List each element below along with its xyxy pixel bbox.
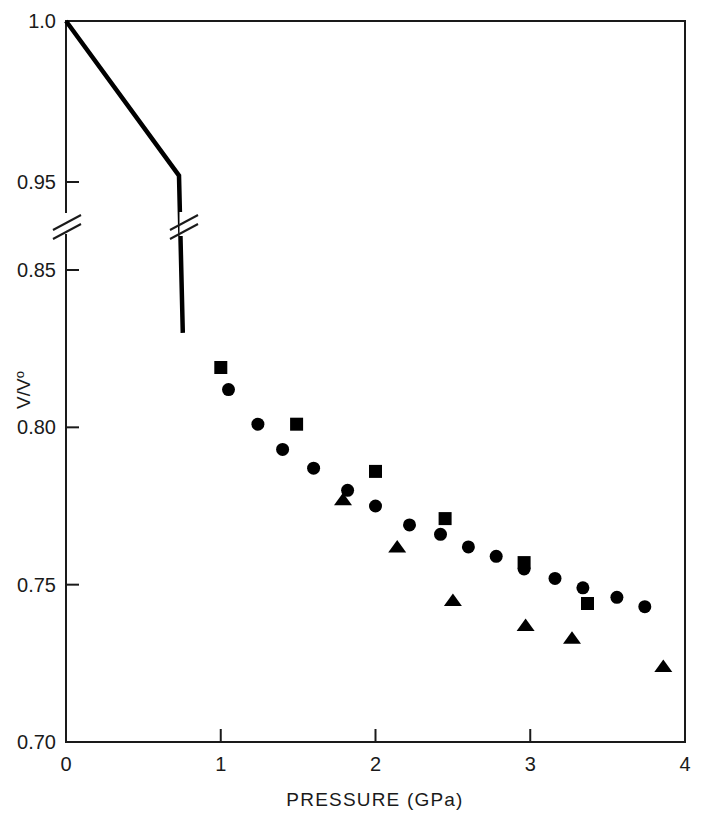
data-point-square — [439, 512, 452, 525]
series-triangles — [334, 493, 672, 672]
compression-curve — [66, 21, 198, 333]
y-axis-title-subscript: o — [12, 371, 27, 378]
data-point-circle — [518, 562, 531, 575]
curve-break-icon — [170, 212, 198, 239]
data-point-circle — [434, 528, 447, 541]
series-circles — [222, 383, 651, 613]
data-point-circle — [490, 550, 503, 563]
x-axis-title: PRESSURE (GPa) — [286, 789, 463, 810]
data-point-triangle — [444, 593, 462, 606]
x-tick-labels: 01234 — [60, 753, 690, 775]
data-point-circle — [251, 418, 264, 431]
data-point-circle — [549, 572, 562, 585]
y-tick-label-0.75: 0.75 — [17, 574, 56, 596]
y-tick-label-0.85: 0.85 — [17, 259, 56, 281]
x-tick-label-3: 3 — [525, 753, 536, 775]
data-point-square — [290, 418, 303, 431]
data-point-circle — [576, 581, 589, 594]
y-axis-title: V/Vo — [12, 371, 34, 409]
x-axis-ticks — [221, 729, 531, 742]
x-tick-label-2: 2 — [370, 753, 381, 775]
x-tick-label-1: 1 — [215, 753, 226, 775]
data-point-circle — [638, 600, 651, 613]
data-point-triangle — [388, 540, 406, 553]
series-squares — [214, 361, 594, 610]
y-axis-title-denominator: V — [13, 378, 34, 391]
data-point-triangle — [654, 660, 672, 673]
x-tick-label-0: 0 — [60, 753, 71, 775]
y-tick-label-0.95: 0.95 — [17, 171, 56, 193]
y-axis-title-numerator: V — [13, 396, 34, 409]
x-tick-label-4: 4 — [679, 753, 690, 775]
svg-text:V/Vo: V/Vo — [12, 371, 34, 409]
data-point-square — [369, 465, 382, 478]
data-point-circle — [462, 540, 475, 553]
data-point-circle — [403, 518, 416, 531]
axes-frame — [66, 21, 685, 742]
data-point-circle — [369, 500, 382, 513]
y-tick-label-0.80: 0.80 — [17, 416, 56, 438]
data-point-circle — [307, 462, 320, 475]
figure-container: 0.700.750.800.850.951.0 01234 PRESSURE (… — [0, 0, 706, 822]
data-point-circle — [610, 591, 623, 604]
data-point-square — [581, 597, 594, 610]
data-point-square — [214, 361, 227, 374]
scatter-plot: 0.700.750.800.850.951.0 01234 PRESSURE (… — [0, 0, 706, 822]
data-point-triangle — [517, 619, 535, 632]
data-point-triangle — [563, 631, 581, 644]
data-point-circle — [276, 443, 289, 456]
y-axis-ticks — [66, 182, 79, 585]
y-tick-label-0.70: 0.70 — [17, 731, 56, 753]
data-markers — [214, 361, 672, 672]
y-tick-label-1.0: 1.0 — [28, 10, 56, 32]
data-point-circle — [222, 383, 235, 396]
plot-frame — [66, 21, 685, 742]
